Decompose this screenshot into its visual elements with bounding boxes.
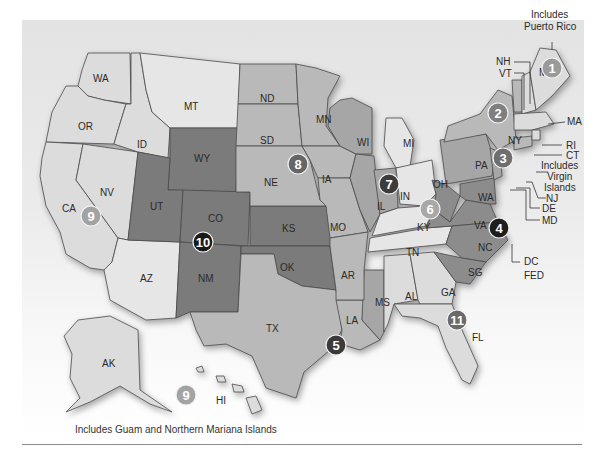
circuit-badge-number: 1	[548, 61, 555, 76]
leader-de	[516, 188, 540, 208]
label-co: CO	[208, 213, 223, 224]
note-vi-line1: Includes	[541, 160, 578, 171]
label-il: IL	[377, 201, 386, 212]
note-guam: Includes Guam and Northern Mariana Islan…	[75, 424, 277, 435]
callout-md: MD	[542, 215, 558, 226]
circuit-badge-11: 11	[447, 310, 467, 330]
label-oh: OH	[433, 179, 448, 190]
label-wy: WY	[194, 153, 210, 164]
leader-nj	[526, 182, 546, 198]
circuit-badge-number: 2	[494, 106, 501, 121]
state-hi-kauai	[196, 366, 204, 372]
circuit-badge-7: 7	[379, 174, 399, 194]
circuit-badge-1: 1	[542, 58, 562, 78]
label-tx: TX	[266, 323, 279, 334]
label-ms: MS	[375, 297, 390, 308]
label-nm: NM	[198, 273, 214, 284]
label-ut: UT	[150, 201, 163, 212]
label-in: IN	[400, 191, 410, 202]
circuit-badge-8: 8	[288, 154, 308, 174]
label-id: ID	[137, 139, 147, 150]
leader-dc	[512, 244, 520, 262]
state-ak	[64, 316, 172, 412]
label-fl: FL	[472, 332, 484, 343]
label-nd: ND	[260, 93, 274, 104]
label-al: AL	[405, 291, 418, 302]
state-hi-oahu	[216, 376, 226, 382]
label-nv: NV	[100, 187, 114, 198]
callout-ma: MA	[567, 116, 582, 127]
label-va: VA	[474, 220, 487, 231]
circuit-badge-number: 8	[294, 157, 301, 172]
label-la: LA	[346, 315, 359, 326]
label-tn: TN	[406, 247, 419, 258]
label-wa: WA	[93, 73, 109, 84]
circuit-badge-number: 10	[196, 235, 210, 250]
label-mo: MO	[330, 222, 346, 233]
label-ks: KS	[282, 223, 296, 234]
note-pr-line2: Puerto Rico	[524, 21, 577, 32]
label-az: AZ	[140, 273, 153, 284]
judicial-circuits-map: WA OR CA NV ID MT WY UT AZ CO NM ND SD N…	[0, 0, 604, 457]
circuit-badge-number: 5	[332, 338, 339, 353]
label-ca: CA	[62, 203, 76, 214]
circuit-badge-9a: 9	[81, 206, 101, 226]
circuit-badge-number: 11	[450, 313, 464, 328]
state-ar	[330, 232, 368, 300]
circuit-badge-number: 7	[385, 177, 392, 192]
label-hi: HI	[216, 395, 226, 406]
label-sd: SD	[260, 135, 274, 146]
circuit-badge-number: 4	[495, 221, 503, 236]
state-hi-maui	[232, 384, 244, 392]
callout-de: DE	[542, 203, 556, 214]
us-map-svg: WA OR CA NV ID MT WY UT AZ CO NM ND SD N…	[0, 0, 604, 457]
label-ar: AR	[341, 270, 355, 281]
label-ne: NE	[264, 177, 278, 188]
label-or: OR	[78, 121, 93, 132]
circuit-badge-number: 3	[499, 151, 506, 166]
state-ma	[514, 112, 554, 130]
circuit-badge-9b: 9	[176, 385, 196, 405]
circuit-badge-10: 10	[193, 232, 213, 252]
callout-dc: DC	[524, 256, 538, 267]
label-mi: MI	[403, 138, 414, 149]
label-ky: KY	[417, 222, 431, 233]
state-hi-big	[246, 396, 262, 414]
note-pr-line1: Includes	[531, 9, 568, 20]
circuit-badge-2: 2	[488, 103, 508, 123]
circuit-badge-5: 5	[326, 335, 346, 355]
note-vi-line3: Islands	[544, 182, 576, 193]
label-ok: OK	[280, 262, 295, 273]
callout-fed: FED	[524, 270, 544, 281]
label-ny: NY	[508, 135, 522, 146]
label-wv: WA	[478, 192, 494, 203]
state-vt	[512, 80, 522, 112]
leader-md	[510, 190, 540, 220]
state-me	[530, 48, 570, 110]
label-nc: NC	[478, 242, 492, 253]
callout-vt: VT	[499, 68, 512, 79]
circuit-badge-number: 6	[426, 202, 433, 217]
note-vi-line2: Virgin	[547, 171, 572, 182]
label-ak: AK	[102, 358, 116, 369]
circuit-badge-number: 9	[182, 388, 189, 403]
circuit-badge-number: 9	[87, 209, 94, 224]
label-wi: WI	[357, 137, 369, 148]
circuit-badge-6: 6	[420, 199, 440, 219]
state-ri	[532, 130, 540, 140]
label-mt: MT	[184, 101, 198, 112]
callout-nh: NH	[496, 56, 510, 67]
label-mn: MN	[316, 114, 332, 125]
circuit-badge-4: 4	[489, 218, 509, 238]
label-ga: GA	[441, 287, 456, 298]
circuit-badge-3: 3	[493, 148, 513, 168]
label-pa: PA	[475, 160, 488, 171]
label-ia: IA	[322, 174, 332, 185]
label-sc: SG	[468, 267, 483, 278]
